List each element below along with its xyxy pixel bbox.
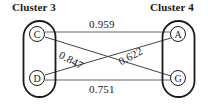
- node-d[interactable]: D: [30, 71, 45, 86]
- cluster-similarity-diagram: Cluster 3 Cluster 4 C D: [0, 0, 211, 106]
- node-g-label: G: [174, 73, 181, 84]
- node-c[interactable]: C: [30, 27, 45, 42]
- node-c-label: C: [34, 29, 41, 40]
- node-d-label: D: [33, 73, 40, 84]
- edge-weight-d-g: 0.751: [89, 83, 115, 95]
- node-a[interactable]: A: [171, 27, 186, 42]
- edge-weight-c-a: 0.959: [89, 18, 115, 30]
- node-a-label: A: [174, 29, 182, 40]
- node-g[interactable]: G: [171, 71, 186, 86]
